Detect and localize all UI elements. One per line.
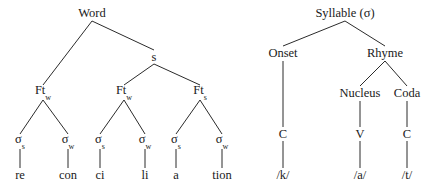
leaf-tion-label: tion (212, 168, 231, 182)
edge-rhyme-coda (385, 61, 407, 86)
node-sigma-1: σs (15, 133, 25, 149)
node-sigma-6-subscript: w (222, 142, 228, 151)
leaf-segment-k-label: /k/ (276, 168, 289, 182)
node-syllable: Syllable (σ) (315, 7, 374, 20)
leaf-segment-a-label: /a/ (354, 168, 367, 182)
node-onset: Onset (268, 47, 297, 60)
leaf-li: li (142, 169, 149, 182)
node-nucleus-slot-v-label: V (355, 127, 364, 141)
node-onset-slot-c: C (279, 128, 287, 141)
leaf-a: a (173, 169, 179, 182)
node-foot-2-subscript: w (126, 93, 132, 102)
leaf-con: con (59, 169, 77, 182)
node-foot-2: Ftw (116, 84, 132, 100)
node-rhyme: Rhyme (367, 47, 403, 60)
node-sigma-5-label: σ (171, 132, 178, 146)
node-onset-label: Onset (268, 46, 297, 60)
node-sigma-4: σw (139, 133, 152, 149)
node-sigma-3-label: σ (95, 132, 102, 146)
node-sigma-2-label: σ (62, 132, 69, 146)
leaf-ci-label: ci (95, 168, 104, 182)
edge-s-foot2 (124, 64, 154, 85)
leaf-segment-t: /t/ (402, 169, 412, 182)
node-rhyme-label: Rhyme (367, 46, 403, 60)
edge-foot3-sigma5 (176, 100, 200, 134)
edge-syllable-onset (283, 21, 345, 46)
node-s-label: s (152, 50, 157, 64)
edge-foot1-sigma1 (20, 100, 43, 134)
node-sigma-4-subscript: w (145, 142, 151, 151)
leaf-a-label: a (173, 168, 179, 182)
edge-s-foot3 (154, 64, 200, 85)
leaf-segment-a: /a/ (354, 169, 367, 182)
edge-word-s (92, 21, 154, 50)
edge-foot3-sigma6 (200, 100, 222, 134)
leaf-li-label: li (142, 168, 149, 182)
node-coda-label: Coda (394, 86, 420, 100)
leaf-re-label: re (15, 168, 25, 182)
node-foot-2-label: Ft (116, 83, 126, 97)
node-sigma-6: σw (216, 133, 229, 149)
node-syllable-label: Syllable (σ) (315, 6, 374, 20)
node-foot-1: Ftw (35, 84, 51, 100)
leaf-con-label: con (59, 168, 77, 182)
node-sigma-3-subscript: s (102, 142, 105, 151)
leaf-segment-k: /k/ (276, 169, 289, 182)
node-word: Word (78, 7, 105, 20)
node-sigma-2: σw (62, 133, 75, 149)
node-foot-3: Fts (193, 84, 207, 100)
leaf-tion: tion (212, 169, 231, 182)
node-foot-1-subscript: w (45, 93, 51, 102)
leaf-ci: ci (95, 169, 104, 182)
node-coda: Coda (394, 87, 420, 100)
node-sigma-6-label: σ (216, 132, 223, 146)
node-coda-slot-c: C (403, 128, 411, 141)
leaf-segment-t-label: /t/ (402, 168, 412, 182)
node-sigma-5-subscript: s (178, 142, 181, 151)
edge-syllable-rhyme (345, 21, 385, 46)
node-foot-3-label: Ft (193, 83, 203, 97)
leaf-re: re (15, 169, 25, 182)
edge-rhyme-nucleus (360, 61, 385, 86)
edge-foot2-sigma4 (124, 100, 145, 134)
node-nucleus-label: Nucleus (340, 86, 381, 100)
node-nucleus: Nucleus (340, 87, 381, 100)
node-onset-slot-c-label: C (279, 127, 287, 141)
node-sigma-4-label: σ (139, 132, 146, 146)
node-sigma-1-label: σ (15, 132, 22, 146)
node-s: s (152, 51, 157, 64)
node-word-label: Word (78, 6, 105, 20)
figure-canvas: Word s Ftw Ftw Fts σs σw σs σw σs σw re … (0, 0, 433, 191)
edge-foot1-sigma2 (43, 100, 68, 134)
node-foot-3-subscript: s (204, 93, 207, 102)
node-sigma-2-subscript: w (68, 142, 74, 151)
edge-foot2-sigma3 (100, 100, 124, 134)
node-sigma-5: σs (171, 133, 181, 149)
edge-word-foot1 (43, 21, 92, 85)
node-sigma-1-subscript: s (22, 142, 25, 151)
node-foot-1-label: Ft (35, 83, 45, 97)
node-nucleus-slot-v: V (355, 128, 364, 141)
node-sigma-3: σs (95, 133, 105, 149)
node-coda-slot-c-label: C (403, 127, 411, 141)
